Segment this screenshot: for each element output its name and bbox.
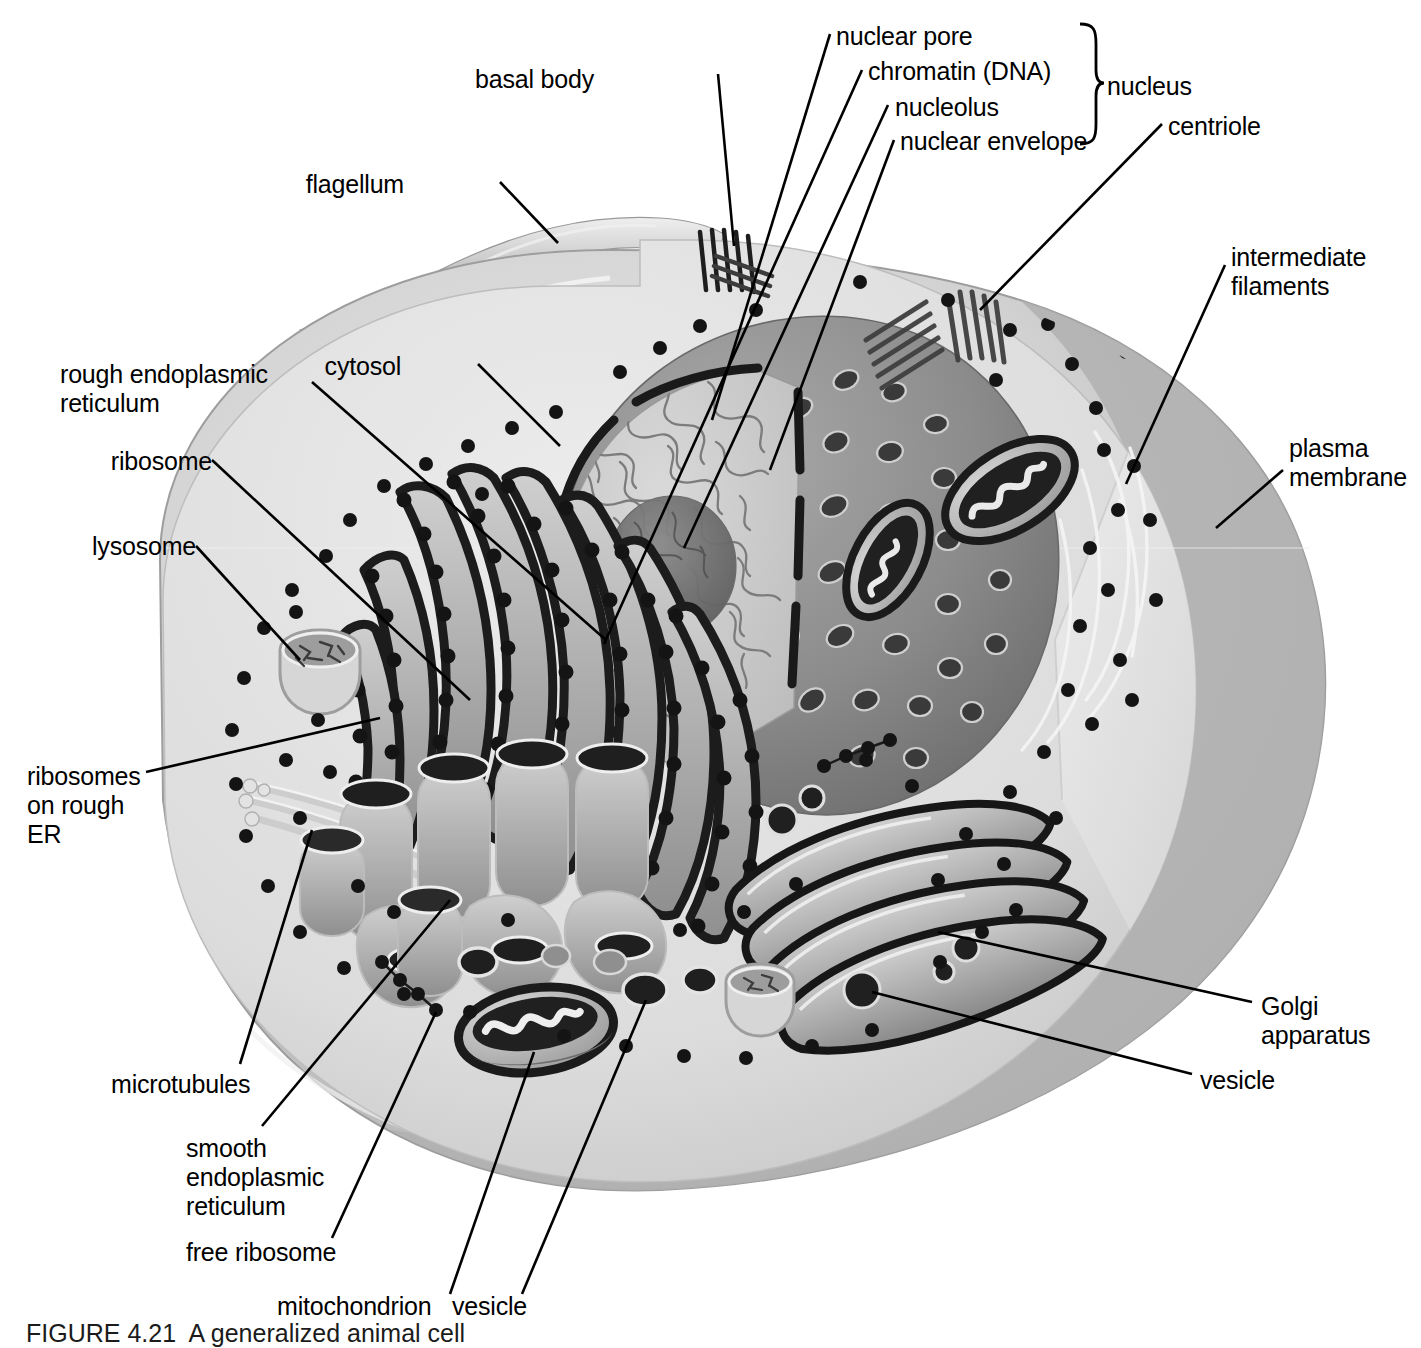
label-intermediate-filaments: intermediate filaments — [1231, 243, 1366, 301]
label-nuclear-pore: nuclear pore — [836, 22, 973, 51]
label-centriole: centriole — [1168, 112, 1261, 141]
vesicle-right-structure — [844, 972, 880, 1008]
label-lysosome: lysosome — [16, 532, 196, 561]
nucleus-bracket — [1080, 24, 1104, 144]
label-chromatin-dna: chromatin (DNA) — [868, 57, 1051, 86]
label-vesicle-bottom: vesicle — [452, 1292, 527, 1321]
figure-caption: FIGURE 4.21 A generalized animal cell — [26, 1319, 465, 1348]
label-basal-body: basal body — [394, 65, 594, 94]
label-plasma-membrane: plasma membrane — [1289, 434, 1407, 492]
label-mitochondrion: mitochondrion — [277, 1292, 431, 1321]
label-vesicle-right: vesicle — [1200, 1066, 1275, 1095]
label-nucleus: nucleus — [1107, 72, 1192, 101]
label-smooth-endoplasmic-reticulum: smooth endoplasmic reticulum — [186, 1134, 324, 1221]
label-golgi-apparatus: Golgi apparatus — [1261, 992, 1370, 1050]
label-nucleolus: nucleolus — [895, 93, 999, 122]
label-ribosomes-on-rough-er: ribosomes on rough ER — [27, 762, 141, 849]
label-free-ribosome: free ribosome — [186, 1238, 336, 1267]
label-flagellum: flagellum — [224, 170, 404, 199]
label-microtubules: microtubules — [111, 1070, 250, 1099]
label-nuclear-envelope: nuclear envelope — [900, 127, 1087, 156]
leader-basal-body — [718, 74, 734, 246]
label-ribosome: ribosome — [22, 447, 212, 476]
label-rough-endoplasmic-reticulum: rough endoplasmic reticulum — [60, 360, 310, 418]
